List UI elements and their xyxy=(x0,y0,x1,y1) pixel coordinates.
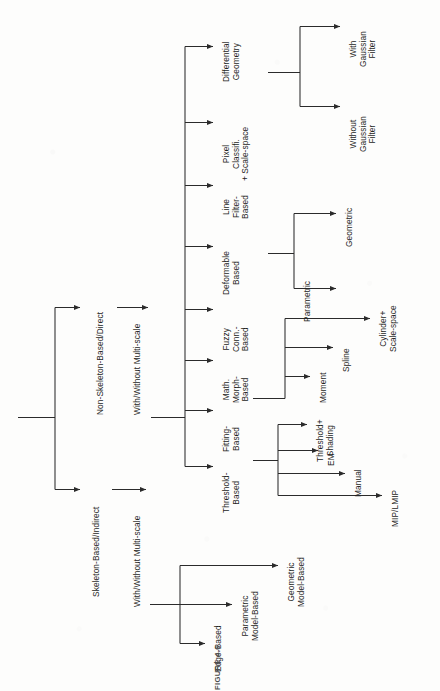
node-with-without-multiscale-top: With/Without Multi-scale xyxy=(133,324,143,415)
node-with-gaussian-filter: With Gaussian Filter xyxy=(349,31,378,67)
figure-page: Non-Skeleton-Based/Direct With/Without M… xyxy=(0,0,440,691)
node-cylinder-scale-space: Cylinder+ Scale-space xyxy=(379,305,398,352)
node-em: EM xyxy=(327,453,337,466)
connector-lines xyxy=(0,0,440,691)
node-math-morph-based: Math. Morph- Based xyxy=(222,376,251,403)
node-threshold-based: Threshold- Based xyxy=(222,472,241,513)
node-differential-geometry: Differential Geometry xyxy=(222,41,241,82)
node-geometric-model-based: Geometric Model-Based xyxy=(287,557,306,607)
node-geometric: Geometric xyxy=(345,208,355,247)
node-spline: Spline xyxy=(342,348,352,372)
node-deformable-based: Deformable Based xyxy=(222,251,241,295)
node-parametric-model-based: Parametric Model-Based xyxy=(241,591,260,641)
node-mip-lmip: MIP/LMIP xyxy=(391,490,401,527)
taxonomy-diagram: Non-Skeleton-Based/Direct With/Without M… xyxy=(0,0,440,691)
node-fitting-based: Fitting- Based xyxy=(222,426,241,452)
node-fuzzy-conn-based: Fuzzy Conn.- Based xyxy=(222,326,251,352)
node-line-filter-based: Line Filter- Based xyxy=(222,195,251,219)
node-parametric: Parametric xyxy=(303,281,313,322)
node-moment: Moment xyxy=(319,372,329,403)
node-skeleton-based-indirect: Skeleton-Based/Indirect xyxy=(92,507,102,597)
node-pixel-classification: Pixel Classifi. + Scale-space xyxy=(222,127,251,181)
node-with-without-multiscale-bottom: With/Without Multi-scale xyxy=(133,516,143,607)
node-without-gaussian-filter: Without Gaussian Filter xyxy=(349,116,378,152)
node-manual: Manual xyxy=(354,469,364,497)
node-non-skeleton-based-direct: Non-Skeleton-Based/Direct xyxy=(96,312,106,415)
figure-caption: FIGURE 4.6 xyxy=(213,645,222,690)
